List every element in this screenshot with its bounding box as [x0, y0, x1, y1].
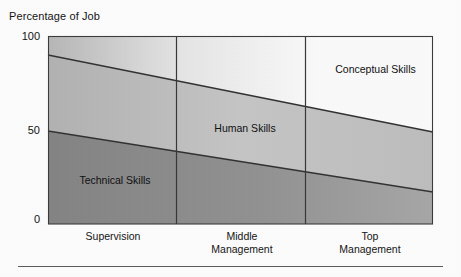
footer-rule: [18, 266, 443, 267]
chart-figure: Percentage of Job 100 50 0: [0, 0, 461, 277]
x-axis-tick-middle-management: Middle Management: [182, 230, 302, 255]
band-label-human-skills: Human Skills: [190, 122, 300, 134]
band-label-technical-skills: Technical Skills: [60, 174, 170, 186]
band-label-conceptual-skills: Conceptual Skills: [318, 63, 433, 75]
x-axis-tick-supervision: Supervision: [53, 230, 173, 243]
x-axis-tick-top-management: Top Management: [310, 230, 430, 255]
